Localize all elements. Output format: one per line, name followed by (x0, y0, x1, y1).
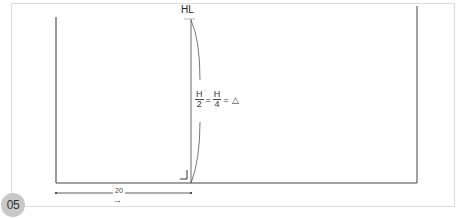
prime-mark: ' (205, 88, 206, 97)
hl-label: HL (181, 4, 194, 15)
fraction-h-prime-over-2: H' 2 (195, 90, 204, 109)
fraction-denominator: 4 (214, 100, 221, 109)
triangle-delta-icon: △ (232, 95, 239, 105)
fraction-h-over-4: H 4 (213, 90, 222, 109)
dimension-endpoint-right (190, 192, 192, 194)
fraction-numerator: H' (195, 90, 204, 100)
dart-formula: H' 2 = H 4 = △ (195, 90, 240, 109)
equals-sign: = (206, 95, 211, 105)
equals-sign: = (223, 95, 228, 105)
bracket-curve-upper (191, 20, 200, 80)
bracket-curve-lower (191, 122, 200, 183)
dimension-endpoint-left (55, 192, 57, 194)
arrow-right-icon: → (113, 195, 122, 205)
pattern-drawing (0, 0, 462, 218)
fraction-numerator: H (213, 90, 222, 100)
dimension-value: 20 (113, 187, 125, 194)
right-angle-mark (180, 170, 187, 179)
step-number-badge: 05 (1, 193, 25, 217)
fraction-denominator: 2 (196, 100, 203, 109)
